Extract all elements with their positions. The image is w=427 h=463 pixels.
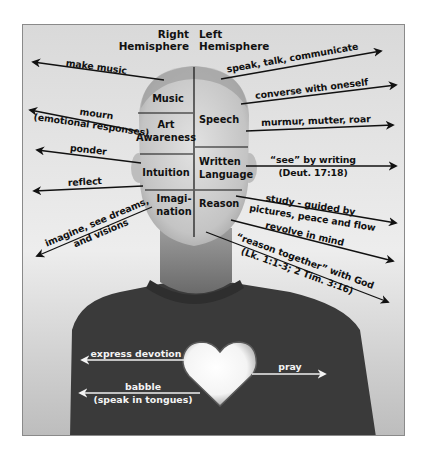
region-written-line1: Written xyxy=(199,156,241,167)
label-see-by-writing-line2: (Deut. 17:18) xyxy=(278,167,347,178)
label-imagine-line1: imagine, see dreams, xyxy=(43,195,150,249)
label-reflect: reflect xyxy=(68,175,103,188)
label-see-by-writing-line1: “see” by writing xyxy=(270,154,356,165)
left-hemisphere-line1: Left xyxy=(199,28,222,40)
region-speech: Speech xyxy=(199,114,239,125)
region-imagination-line1: Imagi- xyxy=(157,193,192,204)
label-babble-line1: babble xyxy=(125,381,161,392)
label-pray: pray xyxy=(278,361,301,372)
label-make-music: make music xyxy=(65,57,127,76)
region-art-line1: Art xyxy=(157,119,174,130)
region-music: Music xyxy=(152,93,184,104)
left-arrow-labels: make music mourn (emotional responses) p… xyxy=(33,57,150,249)
label-express-devotion: express devotion xyxy=(91,348,182,359)
diagram-canvas: Right Hemisphere Left Hemisphere Music A… xyxy=(0,0,427,463)
label-babble-line2: (speak in tongues) xyxy=(93,394,192,405)
left-hemisphere-line2: Hemisphere xyxy=(199,40,269,52)
right-hemisphere-line2: Hemisphere xyxy=(119,40,189,52)
hemisphere-headers: Right Hemisphere Left Hemisphere xyxy=(119,28,270,52)
region-written-line2: Language xyxy=(199,169,253,180)
label-converse: converse with oneself xyxy=(254,76,369,101)
region-intuition: Intuition xyxy=(142,167,189,178)
region-imagination-line2: nation xyxy=(156,206,191,217)
diagram-stage: Right Hemisphere Left Hemisphere Music A… xyxy=(0,0,427,463)
right-hemisphere-line1: Right xyxy=(158,28,189,40)
region-reason: Reason xyxy=(199,198,239,209)
label-murmur: murmur, mutter, roar xyxy=(261,113,371,128)
